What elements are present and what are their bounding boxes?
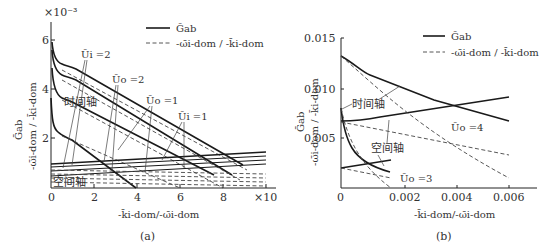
- x-tick-2: 2: [91, 191, 98, 204]
- y-scale-note-a: ×10⁻³: [44, 6, 77, 19]
- x-tick-0002: 0.002: [389, 191, 421, 204]
- y-label-bottom-a: -ω̄i-dom / -k̄i-dom: [27, 82, 38, 170]
- y-tick-4: 4: [42, 83, 49, 96]
- legend-dash-label: -ω̄i-dom / -k̄i-dom: [176, 38, 264, 49]
- legend-dash-label-b: -ω̄i-dom / -k̄i-dom: [451, 47, 539, 58]
- x-label-a: -k̄i-dom/-ω̄i-dom: [118, 209, 200, 220]
- dash-b-uo4-time: [341, 122, 509, 155]
- legend-solid-label: Ḡab: [176, 23, 196, 34]
- panel-a: ×10⁻³ 6 4 2 0 2 4 6 8 ×10 Ḡab -ω̄i-dom /…: [13, 6, 277, 243]
- curve-b-uo3-space: [341, 108, 390, 172]
- annot-ui1: Ūi =1: [178, 111, 208, 122]
- y-tick-0015: 0.015: [304, 32, 336, 45]
- annot-space-axis-a: 空间轴: [53, 175, 86, 189]
- x-tick-0006: 0.006: [493, 191, 525, 204]
- y-label-top-a: Ḡab: [13, 120, 24, 140]
- annot-uo3: Ūo =3: [400, 173, 432, 184]
- annot-space-axis-b: 空间轴: [371, 141, 404, 155]
- y-tick-6: 6: [42, 34, 49, 47]
- dash-b-uo4-space: [341, 56, 509, 178]
- panel-b: 0.015 0.010 0.005 0 0.002 0.004 0.006 Ḡa…: [295, 31, 539, 243]
- annot-time-axis-a: 时间轴: [64, 95, 97, 109]
- annot-uo1: Ūo =1: [146, 95, 178, 106]
- y-label-bottom-b: -ω̄i-dom / -k̄i-dom: [309, 78, 320, 166]
- x-tick-6: 6: [177, 191, 184, 204]
- x-tick-8: 8: [220, 191, 227, 204]
- x-label-b: -k̄i-dom/-ω̄i-dom: [414, 209, 496, 220]
- y-tick-2: 2: [42, 132, 49, 145]
- caption-b: (b): [436, 230, 452, 243]
- annot-uo2: Ūo =2: [112, 74, 144, 85]
- figure: ×10⁻³ 6 4 2 0 2 4 6 8 ×10 Ḡab -ω̄i-dom /…: [0, 0, 545, 249]
- annot-uo4: Ūo =4: [451, 122, 483, 133]
- legend-solid-label-b: Ḡab: [451, 31, 471, 42]
- annot-ui2: Ūi =2: [81, 49, 111, 60]
- curve-b-uo4-space: [341, 56, 509, 121]
- caption-a: (a): [140, 230, 155, 243]
- y-label-top-b: Ḡab: [295, 112, 306, 132]
- x-tick-4: 4: [134, 191, 141, 204]
- x-scale-note-a: ×10: [254, 191, 277, 204]
- x-tick-0: 0: [337, 191, 344, 204]
- x-tick-0004: 0.004: [441, 191, 473, 204]
- x-tick-0: 0: [48, 191, 55, 204]
